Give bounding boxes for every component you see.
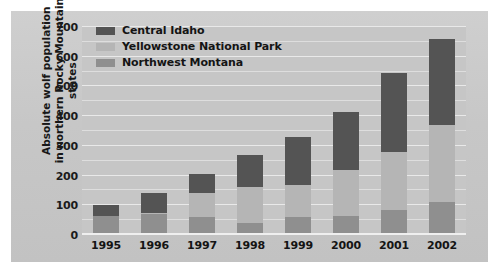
- legend-item[interactable]: Northwest Montana: [96, 56, 282, 69]
- chart-panel: Absolute wolf population in northern Roc…: [11, 11, 488, 262]
- bar-group-1996[interactable]: [141, 193, 167, 235]
- bar-segment[interactable]: [285, 137, 311, 185]
- bar-segment[interactable]: [381, 210, 407, 235]
- bar-segment[interactable]: [381, 73, 407, 152]
- chart-screenshot: Absolute wolf population in northern Roc…: [0, 0, 499, 277]
- bar-segment[interactable]: [429, 202, 455, 235]
- legend-swatch-icon: [96, 43, 115, 51]
- bar-segment[interactable]: [141, 214, 167, 235]
- bar-segment[interactable]: [189, 174, 215, 193]
- x-axis-line: [82, 233, 466, 235]
- legend-item[interactable]: Central Idaho: [96, 24, 282, 37]
- bar-group-2000[interactable]: [333, 112, 359, 235]
- bar-segment[interactable]: [285, 185, 311, 218]
- y-tick-label-100: 100: [44, 200, 78, 211]
- bar-segment[interactable]: [333, 112, 359, 170]
- x-axis-tick-labels: 19951996199719981999200020012002: [82, 239, 466, 257]
- y-tick-label-300: 300: [44, 140, 78, 151]
- y-tick-label-600: 600: [44, 51, 78, 62]
- bar-group-2002[interactable]: [429, 39, 455, 235]
- bar-group-1999[interactable]: [285, 137, 311, 235]
- legend-item-label: Yellowstone National Park: [122, 40, 282, 53]
- y-tick-label-700: 700: [44, 22, 78, 33]
- bar-segment[interactable]: [189, 193, 215, 217]
- bar-segment[interactable]: [429, 39, 455, 125]
- bar-segment[interactable]: [141, 193, 167, 212]
- bar-group-1998[interactable]: [237, 155, 263, 235]
- bar-segment[interactable]: [93, 205, 119, 215]
- bar-segment[interactable]: [237, 155, 263, 188]
- y-tick-label-400: 400: [44, 111, 78, 122]
- x-tick-label-2002: 2002: [412, 239, 472, 252]
- legend-swatch-icon: [96, 27, 115, 35]
- y-tick-label-0: 0: [44, 230, 78, 241]
- bar-group-1995[interactable]: [93, 205, 119, 235]
- y-axis-tick-labels: 0100200300400500600700: [38, 27, 78, 235]
- bar-segment[interactable]: [381, 152, 407, 210]
- bar-segment[interactable]: [333, 170, 359, 216]
- bar-group-2001[interactable]: [381, 73, 407, 235]
- legend-item-label: Central Idaho: [122, 24, 205, 37]
- bar-group-1997[interactable]: [189, 174, 215, 235]
- y-tick-label-200: 200: [44, 170, 78, 181]
- y-tick-label-500: 500: [44, 81, 78, 92]
- chart-legend: Central IdahoYellowstone National ParkNo…: [96, 24, 282, 72]
- legend-item[interactable]: Yellowstone National Park: [96, 40, 282, 53]
- legend-item-label: Northwest Montana: [122, 56, 243, 69]
- legend-swatch-icon: [96, 59, 115, 67]
- bar-segment[interactable]: [237, 187, 263, 223]
- bar-segment[interactable]: [429, 125, 455, 202]
